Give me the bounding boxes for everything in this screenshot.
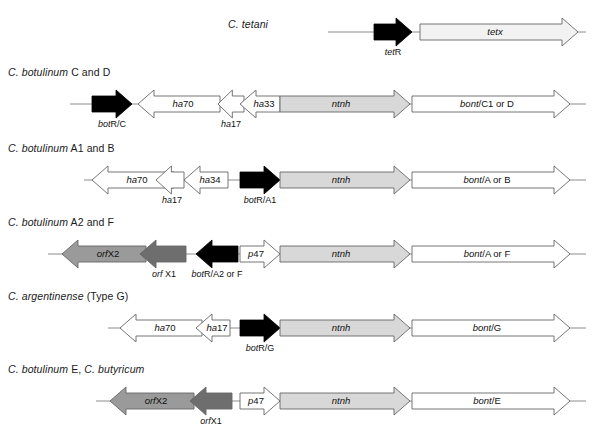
gene-label-orfx2: orfX2 xyxy=(145,395,168,406)
locus-row-c-argentinense-g: ha70ha17botR/Gntnhbont/G xyxy=(108,314,586,353)
gene-label-botr-g: botR/G xyxy=(246,343,275,353)
gene-label-ntnh: ntnh xyxy=(332,174,351,185)
organism-label-c-tetani: C. tetani xyxy=(228,18,268,30)
gene-arrow-botr-a2-or-f[interactable] xyxy=(196,240,238,268)
locus-row-c-botulinum-c-d: botR/Cha70ha17ha33ntnhbont/C1 or D xyxy=(70,90,586,129)
gene-label-tetr: tetR xyxy=(385,47,402,57)
organism-label-c-botulinum-a2-f: C. botulinum A2 and F xyxy=(8,216,114,228)
gene-label-tetx: tetx xyxy=(487,26,504,37)
gene-label-ha17: ha17 xyxy=(162,195,182,205)
organism-label-c-botulinum-e-butyricum: C. botulinum E, C. butyricum xyxy=(8,363,144,375)
gene-label-p47: p47 xyxy=(247,248,264,259)
gene-arrow-botr-g[interactable] xyxy=(240,314,280,342)
gene-arrow-orfx1[interactable] xyxy=(140,240,186,268)
gene-label-ha70: ha70 xyxy=(172,98,193,109)
gene-label-ha33: ha33 xyxy=(253,98,274,109)
gene-arrow-ha17[interactable] xyxy=(156,166,184,194)
figure-canvas: tetRtetxbotR/Cha70ha17ha33ntnhbont/C1 or… xyxy=(0,0,592,436)
gene-label-botr-a1: botR/A1 xyxy=(244,195,277,205)
gene-arrow-orfx1[interactable] xyxy=(190,387,232,415)
gene-label-ntnh: ntnh xyxy=(332,248,351,259)
gene-label-bont-g: bont/G xyxy=(473,322,502,333)
gene-label-ha34: ha34 xyxy=(199,174,220,185)
gene-arrow-tetr[interactable] xyxy=(374,18,412,46)
gene-arrow-botr-a1[interactable] xyxy=(240,166,280,194)
gene-label-ntnh: ntnh xyxy=(332,395,351,406)
gene-label-ha70: ha70 xyxy=(126,174,147,185)
organism-label-c-botulinum-a1-b: C. botulinum A1 and B xyxy=(8,142,115,154)
gene-label-ha17: ha17 xyxy=(206,322,227,333)
locus-row-c-tetani: tetRtetx xyxy=(328,18,586,57)
gene-label-p47: p47 xyxy=(247,395,264,406)
gene-arrow-botr-c[interactable] xyxy=(92,90,132,118)
gene-label-bont-a-or-f: bont/A or F xyxy=(464,248,511,259)
gene-label-bont-a-or-b: bont/A or B xyxy=(463,174,510,185)
locus-row-c-botulinum-a2-f: orfX2orf X1botR/A2 or Fp47ntnhbont/A or … xyxy=(48,240,586,279)
gene-label-bont-c1-or-d: bont/C1 or D xyxy=(460,98,514,109)
organism-label-c-argentinense-g: C. argentinense (Type G) xyxy=(8,290,128,302)
gene-label-orfx1: orfX1 xyxy=(200,416,222,426)
organism-label-c-botulinum-c-d: C. botulinum C and D xyxy=(8,66,110,78)
gene-label-orfx1: orf X1 xyxy=(152,269,176,279)
gene-label-botr-c: botR/C xyxy=(98,119,127,129)
gene-label-ntnh: ntnh xyxy=(332,98,351,109)
gene-label-orfx2: orfX2 xyxy=(97,248,120,259)
locus-row-c-botulinum-a1-b: ha70ha17ha34botR/A1ntnhbont/A or B xyxy=(84,166,586,205)
gene-label-botr-a2-or-f: botR/A2 or F xyxy=(191,269,243,279)
gene-label-ntnh: ntnh xyxy=(332,322,351,333)
locus-row-c-botulinum-e-butyricum: orfX2orfX1p47ntnhbont/E xyxy=(96,387,586,426)
gene-label-ha17: ha17 xyxy=(221,119,241,129)
gene-label-bont-e: bont/E xyxy=(473,395,500,406)
gene-label-ha70: ha70 xyxy=(154,322,175,333)
